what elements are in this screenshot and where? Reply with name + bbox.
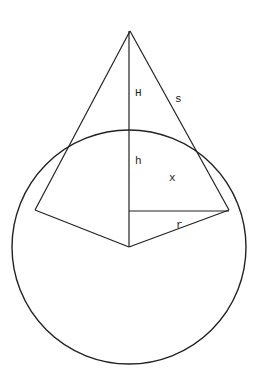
radius-left	[35, 210, 129, 247]
label-s: s	[175, 93, 182, 105]
label-H: H	[135, 87, 142, 99]
label-r: r	[176, 219, 183, 231]
cone-right-side-s	[130, 31, 229, 210]
label-x: x	[169, 172, 176, 184]
cone-left-side	[35, 31, 130, 210]
cone-sphere-diagram: H s h x r	[0, 0, 260, 379]
label-h: h	[135, 155, 142, 167]
